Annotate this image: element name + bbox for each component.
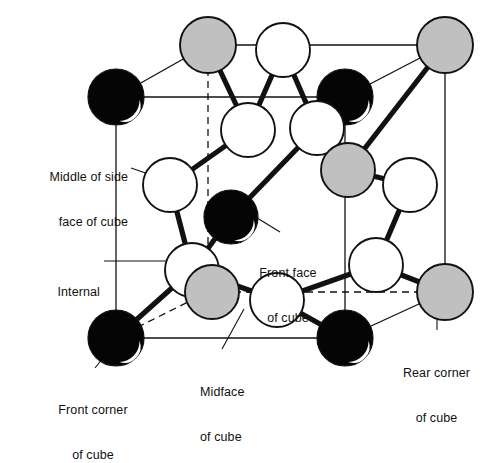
atom-circle-face-center-top (256, 23, 310, 77)
atom-circle-face-center-left (143, 158, 197, 212)
label-line-1: Front corner (28, 403, 158, 418)
label-line-1: Midface (200, 385, 290, 400)
atom-face-center-left (143, 158, 197, 212)
label-line-1: Front face (236, 266, 340, 281)
label-line-2: of cube (388, 411, 485, 426)
atom-corner-rear-bottom-right (417, 264, 473, 320)
atom-circle-internal-upper-left (221, 103, 275, 157)
atom-midface-right (321, 143, 375, 197)
label-line-1: Middle of side (8, 170, 128, 185)
atom-circle-internal-right-lower (349, 238, 403, 292)
atom-midface-gray (185, 265, 239, 319)
label-line-2: face of cube (8, 215, 128, 230)
atom-circle-corner-rear-bottom-right (417, 264, 473, 320)
label-line-2: of cube (236, 311, 340, 326)
label-line-2: of cube (200, 430, 290, 445)
label-line-1: Internal (0, 285, 100, 300)
atom-corner-rear-top-right (417, 17, 473, 73)
atom-face-center-right (383, 158, 437, 212)
atom-internal-upper-left (221, 103, 275, 157)
atom-corner-front-top-left (88, 69, 144, 125)
label-front-face-of-cube: Front face of cube (236, 236, 340, 356)
atom-internal-right-lower (349, 238, 403, 292)
atom-corner-rear-top-left (180, 17, 236, 73)
atom-circle-midface-right (321, 143, 375, 197)
atom-circle-face-center-right (383, 158, 437, 212)
atom-circle-corner-rear-top-right (417, 17, 473, 73)
atom-face-center-top (256, 23, 310, 77)
label-line-2: of cube (28, 448, 158, 463)
label-middle-of-side-face: Middle of side face of cube (8, 140, 128, 260)
label-internal: Internal (0, 255, 100, 330)
label-front-corner-of-cube: Front corner of cube (28, 373, 158, 463)
label-rear-corner-of-cube: Rear corner of cube (388, 336, 485, 456)
label-line-1: Rear corner (388, 366, 485, 381)
atom-circle-corner-rear-top-left (180, 17, 236, 73)
label-midface-of-cube: Midface of cube (200, 355, 290, 463)
atom-circle-midface-gray (185, 265, 239, 319)
